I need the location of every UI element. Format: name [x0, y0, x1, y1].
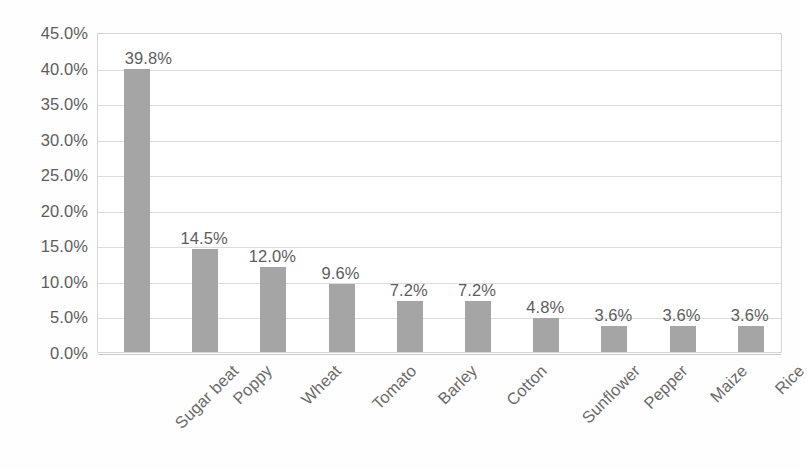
x-axis-category-label: Maize: [707, 362, 750, 405]
y-axis-tick-label: 30.0%: [0, 131, 88, 148]
x-axis-category-label: Cotton: [503, 362, 549, 408]
y-axis: 0.0%5.0%10.0%15.0%20.0%25.0%30.0%35.0%40…: [0, 33, 88, 353]
y-axis-tick-label: 45.0%: [0, 25, 88, 42]
y-axis-tick-label: 10.0%: [0, 274, 88, 291]
x-axis-category-label: Tomato: [369, 362, 419, 412]
y-axis-tick-label: 25.0%: [0, 167, 88, 184]
x-axis: Sugar beatPoppyWheatTomatoBarleyCottonSu…: [97, 356, 782, 469]
bar[interactable]: [124, 69, 150, 352]
plot-area: [97, 33, 782, 353]
bar[interactable]: [670, 326, 696, 352]
bar[interactable]: [738, 326, 764, 352]
bar[interactable]: [397, 301, 423, 352]
bars-container: [98, 34, 781, 352]
y-axis-tick-label: 20.0%: [0, 203, 88, 220]
bar[interactable]: [533, 318, 559, 352]
x-axis-category-label: Barley: [435, 362, 480, 407]
axis-baseline: [98, 354, 781, 355]
bar[interactable]: [465, 301, 491, 352]
x-axis-category-label: Pepper: [641, 362, 691, 412]
bar[interactable]: [192, 249, 218, 352]
y-axis-tick-label: 35.0%: [0, 96, 88, 113]
y-axis-tick-label: 5.0%: [0, 309, 88, 326]
x-axis-category-label: Wheat: [299, 362, 345, 408]
y-axis-tick-label: 40.0%: [0, 60, 88, 77]
x-axis-category-label: Rice: [772, 362, 807, 397]
y-axis-tick-label: 15.0%: [0, 238, 88, 255]
bar[interactable]: [329, 284, 355, 352]
y-axis-tick-label: 0.0%: [0, 345, 88, 362]
bar[interactable]: [601, 326, 627, 352]
x-axis-category-label: Sunflower: [579, 362, 643, 426]
bar[interactable]: [260, 267, 286, 352]
